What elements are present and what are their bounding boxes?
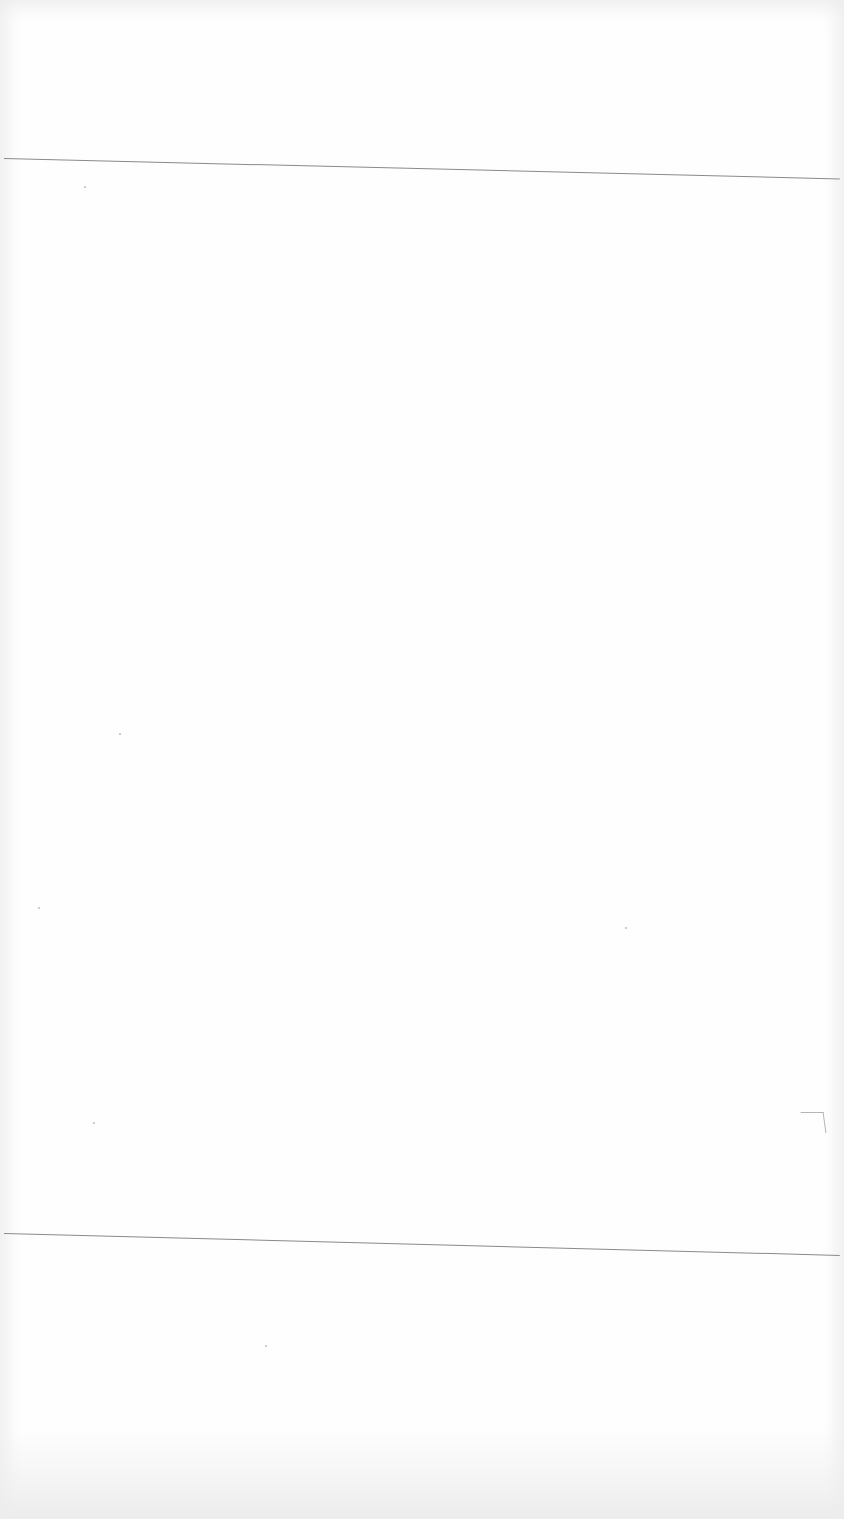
scan-speck — [119, 733, 121, 735]
pencil-mark — [801, 1112, 827, 1133]
scan-speck — [38, 907, 40, 909]
horizontal-rule-bottom — [4, 1233, 840, 1256]
scan-shading — [0, 1429, 844, 1519]
scan-speck — [265, 1345, 267, 1347]
scan-speck — [625, 927, 627, 929]
scan-speck — [84, 186, 86, 188]
blank-page — [0, 0, 844, 1519]
scan-speck — [93, 1122, 95, 1124]
horizontal-rule-top — [4, 158, 840, 179]
